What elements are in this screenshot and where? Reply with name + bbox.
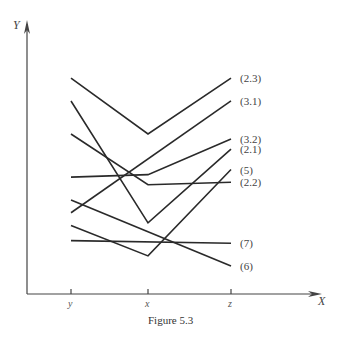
figure-caption: Figure 5.3 — [148, 314, 194, 326]
series-label: (5) — [240, 164, 253, 177]
y-axis-label: Y — [13, 18, 21, 32]
series-label: (2.1) — [240, 143, 261, 156]
series-label: (6) — [240, 260, 253, 273]
figure-diagram: Y X yxz (2.3)(3.1)(3.2)(2.1)(5)(2.2)(7)(… — [0, 0, 343, 345]
series-line — [71, 200, 231, 266]
axes: Y X — [13, 18, 326, 308]
series-line — [71, 78, 231, 134]
series-label: (2.2) — [240, 176, 261, 189]
series-line — [71, 101, 231, 223]
series-label: (2.3) — [240, 72, 261, 85]
x-axis-label: X — [317, 294, 326, 308]
x-ticks: yxz — [67, 289, 232, 309]
series-label: (7) — [240, 237, 253, 250]
series-line — [71, 101, 231, 213]
series-lines: (2.3)(3.1)(3.2)(2.1)(5)(2.2)(7)(6) — [71, 72, 261, 273]
series-line — [71, 241, 231, 244]
x-tick-label: z — [227, 298, 232, 309]
x-tick-label: x — [144, 298, 150, 309]
series-label: (3.1) — [240, 95, 261, 108]
x-tick-label: y — [67, 298, 73, 309]
